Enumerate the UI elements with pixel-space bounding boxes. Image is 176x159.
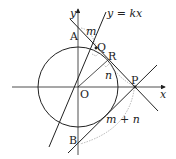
label-A: A [69,30,79,43]
label-B: B [69,134,77,147]
lower-tangent-line [68,65,157,153]
label-Q: Q [97,41,106,54]
label-P: P [131,74,139,87]
x-axis-label: x [160,88,167,101]
label-O: O [80,88,89,101]
right-angle-mark [103,64,109,67]
radius-OR [78,60,108,87]
label-n: n [105,69,112,82]
geometry-diagram: y x y = kx A m Q R n P O m + n B [0,0,176,159]
line-label: y = kx [106,7,143,20]
label-m: m [86,25,96,38]
label-R: R [108,50,117,63]
label-m-plus-n: m + n [106,113,140,126]
y-axis-label: y [69,7,77,20]
